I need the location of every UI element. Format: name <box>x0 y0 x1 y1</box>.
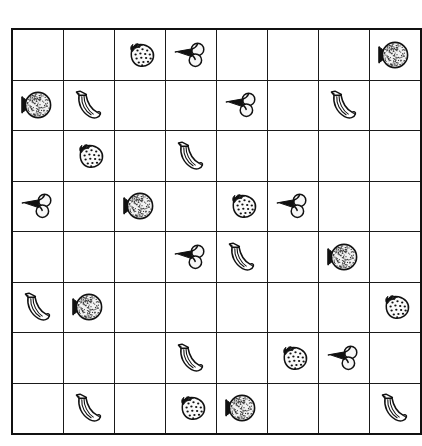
grid-cell[interactable] <box>319 383 370 434</box>
grid-cell[interactable] <box>268 333 319 384</box>
grid-cell[interactable] <box>115 232 166 283</box>
grid-cell[interactable] <box>370 232 422 283</box>
cherry-icon <box>166 232 216 282</box>
grid-cell[interactable] <box>64 80 115 131</box>
banana-icon <box>166 333 216 383</box>
grid-cell[interactable] <box>166 181 217 232</box>
grid-cell[interactable] <box>115 333 166 384</box>
grid-cell[interactable] <box>319 232 370 283</box>
banana-icon <box>217 232 267 282</box>
grid-cell[interactable] <box>12 282 64 333</box>
grid-cell[interactable] <box>64 181 115 232</box>
banana-icon <box>319 81 369 131</box>
grid-cell[interactable] <box>217 333 268 384</box>
grid-cell[interactable] <box>268 181 319 232</box>
grid-cell[interactable] <box>268 29 319 80</box>
cherry-icon <box>169 34 213 76</box>
grid-cell[interactable] <box>217 383 268 434</box>
grid-cell[interactable] <box>166 29 217 80</box>
grid-cell[interactable] <box>12 181 64 232</box>
grid-row <box>12 282 421 333</box>
grid-cell[interactable] <box>319 131 370 182</box>
grid-cell[interactable] <box>64 383 115 434</box>
grid-cell[interactable] <box>166 80 217 131</box>
grid-cell[interactable] <box>166 383 217 434</box>
banana-icon <box>322 84 366 126</box>
orange-icon <box>319 232 369 282</box>
cherry-icon <box>319 333 369 383</box>
orange-icon <box>220 387 264 429</box>
grid-cell[interactable] <box>319 333 370 384</box>
grid-cell[interactable] <box>115 80 166 131</box>
orange-icon <box>373 34 417 76</box>
grid-cell[interactable] <box>64 131 115 182</box>
grid-cell[interactable] <box>319 80 370 131</box>
grid-cell[interactable] <box>217 80 268 131</box>
cherry-icon <box>271 185 315 227</box>
grid-cell[interactable] <box>370 282 422 333</box>
strawberry-icon <box>268 333 318 383</box>
orange-icon <box>16 84 60 126</box>
grid-cell[interactable] <box>12 232 64 283</box>
grid-cell[interactable] <box>64 333 115 384</box>
grid-cell[interactable] <box>217 282 268 333</box>
grid-cell[interactable] <box>370 80 422 131</box>
banana-icon <box>13 283 63 333</box>
grid-cell[interactable] <box>12 131 64 182</box>
grid-cell[interactable] <box>166 232 217 283</box>
grid-cell[interactable] <box>319 282 370 333</box>
grid-cell[interactable] <box>12 29 64 80</box>
grid-cell[interactable] <box>12 333 64 384</box>
grid-cell[interactable] <box>115 282 166 333</box>
strawberry-icon <box>217 182 267 232</box>
banana-icon <box>16 286 60 328</box>
banana-icon <box>64 81 114 131</box>
grid-cell[interactable] <box>319 181 370 232</box>
cherry-icon <box>220 84 264 126</box>
grid-row <box>12 131 421 182</box>
banana-icon <box>373 387 417 429</box>
grid-cell[interactable] <box>64 232 115 283</box>
grid-cell[interactable] <box>370 383 422 434</box>
orange-icon <box>67 286 111 328</box>
grid-cell[interactable] <box>115 181 166 232</box>
grid-row <box>12 333 421 384</box>
banana-icon <box>370 384 420 434</box>
grid-cell[interactable] <box>166 282 217 333</box>
banana-icon <box>67 387 111 429</box>
strawberry-icon <box>115 30 165 80</box>
grid-cell[interactable] <box>12 80 64 131</box>
grid-cell[interactable] <box>166 333 217 384</box>
grid-cell[interactable] <box>115 131 166 182</box>
grid-cell[interactable] <box>268 282 319 333</box>
grid-cell[interactable] <box>64 282 115 333</box>
banana-icon <box>169 135 213 177</box>
grid-cell[interactable] <box>268 383 319 434</box>
grid-cell[interactable] <box>217 131 268 182</box>
grid-cell[interactable] <box>370 333 422 384</box>
grid-cell[interactable] <box>115 29 166 80</box>
banana-icon <box>64 384 114 434</box>
grid-cell[interactable] <box>217 29 268 80</box>
strawberry-icon <box>166 384 216 434</box>
strawberry-icon <box>373 286 417 328</box>
strawberry-icon <box>271 337 315 379</box>
grid-container <box>11 28 411 424</box>
banana-icon <box>166 131 216 181</box>
strawberry-icon <box>118 34 162 76</box>
banana-icon <box>169 337 213 379</box>
grid-cell[interactable] <box>64 29 115 80</box>
grid-cell[interactable] <box>370 29 422 80</box>
grid-cell[interactable] <box>217 232 268 283</box>
strawberry-icon <box>220 185 264 227</box>
grid-cell[interactable] <box>166 131 217 182</box>
grid-cell[interactable] <box>268 80 319 131</box>
grid-cell[interactable] <box>319 29 370 80</box>
grid-cell[interactable] <box>268 232 319 283</box>
grid-cell[interactable] <box>370 181 422 232</box>
grid-cell[interactable] <box>370 131 422 182</box>
grid-cell[interactable] <box>12 383 64 434</box>
grid-cell[interactable] <box>268 131 319 182</box>
grid-cell[interactable] <box>217 181 268 232</box>
grid-cell[interactable] <box>115 383 166 434</box>
